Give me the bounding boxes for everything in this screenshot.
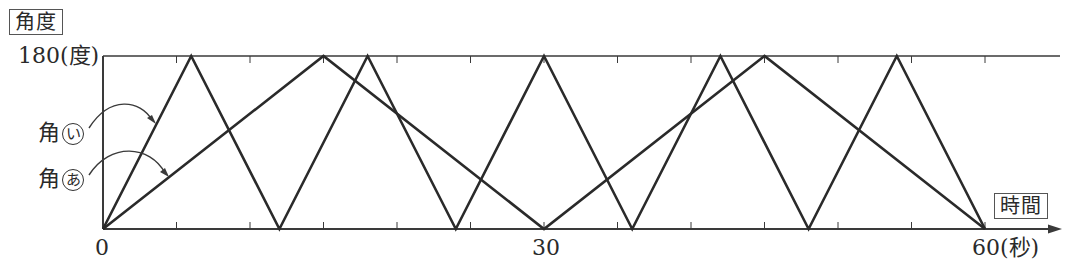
legend-angle-a: 角あ	[38, 168, 84, 191]
annotation-arrows	[89, 104, 169, 177]
series-line-angle-i	[103, 56, 985, 229]
x-axis-label: 時間	[994, 193, 1048, 219]
x-zero-tick-label: 0	[95, 237, 109, 259]
x-axis-arrow-icon	[1048, 225, 1062, 234]
angle-i-leader	[89, 104, 152, 128]
x-mid-tick-label: 30	[532, 237, 560, 259]
angle-i-mark: い	[62, 123, 84, 145]
angle-a-mark: あ	[62, 169, 84, 191]
x-end-tick-label: 60(秒)	[972, 237, 1039, 259]
angle-a-arrowhead-icon	[160, 168, 169, 177]
angle-a-prefix: 角	[38, 166, 60, 191]
angle-i-prefix: 角	[38, 120, 60, 145]
angle-time-chart	[0, 0, 1077, 268]
axes	[103, 56, 1062, 234]
series-lines	[103, 56, 985, 229]
y-axis-label: 角度	[9, 9, 63, 35]
angle-a-leader	[89, 151, 165, 175]
y-max-tick-label: 180(度)	[18, 45, 99, 67]
legend-angle-i: 角い	[38, 122, 84, 145]
angle-i-arrowhead-icon	[147, 115, 156, 124]
